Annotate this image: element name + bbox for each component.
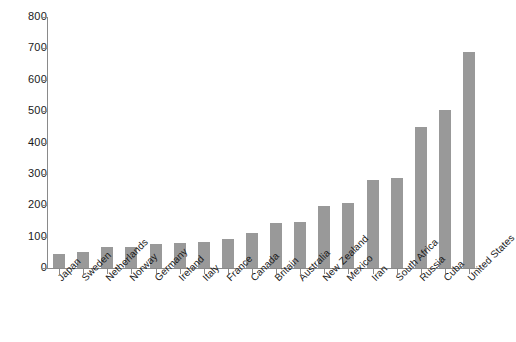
- y-axis-tick-mark: [41, 205, 47, 206]
- y-axis-tick-mark: [41, 174, 47, 175]
- bar: [439, 110, 451, 268]
- y-axis-tick: 200: [0, 205, 47, 206]
- y-axis-tick-mark: [41, 80, 47, 81]
- y-axis-tick: 500: [0, 111, 47, 112]
- bar: [222, 239, 234, 268]
- bar: [463, 52, 475, 268]
- bar: [391, 178, 403, 268]
- y-axis-tick: 700: [0, 48, 47, 49]
- y-axis-tick: 800: [0, 17, 47, 18]
- y-axis-tick: 0: [0, 268, 47, 269]
- y-axis-tick: 100: [0, 237, 47, 238]
- y-axis-tick: 400: [0, 143, 47, 144]
- y-axis-tick-mark: [41, 17, 47, 18]
- y-axis-tick: 300: [0, 174, 47, 175]
- y-axis-line: [47, 17, 48, 268]
- y-axis-tick-mark: [41, 111, 47, 112]
- y-axis-tick-mark: [41, 48, 47, 49]
- y-axis-tick-mark: [41, 143, 47, 144]
- y-axis-tick: 600: [0, 80, 47, 81]
- y-axis-tick-mark: [41, 237, 47, 238]
